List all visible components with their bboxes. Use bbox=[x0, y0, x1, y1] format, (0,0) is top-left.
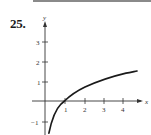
x-tick-label-2: 2 bbox=[83, 106, 87, 114]
log-function-graph: x y 1 2 3 4 3 2 1 −1 bbox=[0, 0, 151, 135]
x-axis-arrow-icon bbox=[137, 99, 143, 103]
x-tick-label-4: 4 bbox=[121, 106, 125, 114]
x-tick-label-3: 3 bbox=[102, 106, 106, 114]
y-tick-label-1: 1 bbox=[37, 79, 41, 87]
y-axis-label: y bbox=[42, 14, 47, 22]
ln-curve bbox=[49, 71, 137, 133]
y-tick-label-3: 3 bbox=[36, 39, 40, 47]
axes bbox=[32, 21, 143, 135]
x-tick-label-1: 1 bbox=[64, 106, 68, 114]
y-tick-label-neg1: −1 bbox=[31, 119, 39, 127]
y-tick-label-2: 2 bbox=[36, 59, 40, 67]
x-axis-label: x bbox=[144, 98, 149, 106]
